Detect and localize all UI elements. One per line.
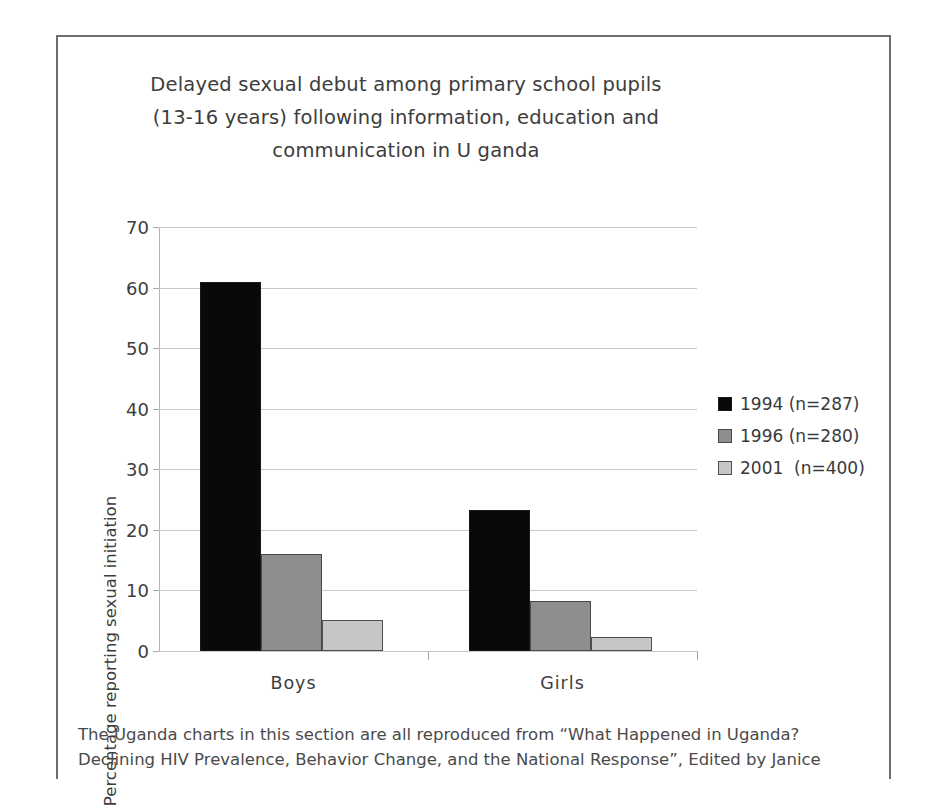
figure-caption: The Uganda charts in this section are al… [78, 722, 878, 772]
y-tick-label-60: 60 [126, 277, 149, 298]
bar-girls-1994 [469, 510, 530, 651]
y-tick-label-70: 70 [126, 217, 149, 238]
bar-girls-1996 [530, 601, 591, 651]
legend-label-2001: 2001 (n=400) [740, 458, 865, 478]
x-tick-label-girls: Girls [540, 673, 585, 693]
gridline-70: 70 [159, 227, 697, 228]
plot-area: 010203040506070 Percentage reporting sex… [159, 227, 697, 651]
legend-item-1994[interactable]: 1994 (n=287) [718, 388, 865, 420]
x-axis-separator-end [697, 651, 698, 660]
y-tick-mark-40 [153, 409, 159, 410]
y-tick-mark-60 [153, 288, 159, 289]
figure-caption-line-1: The Uganda charts in this section are al… [78, 722, 878, 747]
y-tick-mark-30 [153, 469, 159, 470]
x-axis-separator-1 [428, 651, 429, 660]
y-tick-label-20: 20 [126, 519, 149, 540]
y-tick-label-0: 0 [138, 641, 149, 662]
x-tick-label-boys: Boys [270, 673, 316, 693]
legend-swatch-1996 [718, 429, 732, 443]
legend-item-1996[interactable]: 1996 (n=280) [718, 420, 865, 452]
legend-swatch-1994 [718, 397, 732, 411]
y-tick-label-40: 40 [126, 398, 149, 419]
y-tick-mark-20 [153, 530, 159, 531]
bar-girls-2001 [591, 637, 652, 651]
legend-label-1994: 1994 (n=287) [740, 394, 859, 414]
chart-legend: 1994 (n=287)1996 (n=280)2001 (n=400) [718, 388, 865, 484]
figure-caption-line-2: Declining HIV Prevalence, Behavior Chang… [78, 747, 878, 772]
y-tick-mark-50 [153, 348, 159, 349]
bar-boys-1996 [261, 554, 322, 651]
bar-boys-1994 [200, 282, 261, 651]
y-tick-label-50: 50 [126, 338, 149, 359]
y-tick-mark-10 [153, 590, 159, 591]
bar-chart-figure: 010203040506070 Percentage reporting sex… [0, 0, 932, 720]
y-tick-label-30: 30 [126, 459, 149, 480]
legend-item-2001[interactable]: 2001 (n=400) [718, 452, 865, 484]
bar-boys-2001 [322, 620, 383, 651]
legend-swatch-2001 [718, 461, 732, 475]
y-tick-mark-70 [153, 227, 159, 228]
y-tick-label-10: 10 [126, 580, 149, 601]
y-tick-mark-0 [153, 651, 159, 652]
legend-label-1996: 1996 (n=280) [740, 426, 859, 446]
